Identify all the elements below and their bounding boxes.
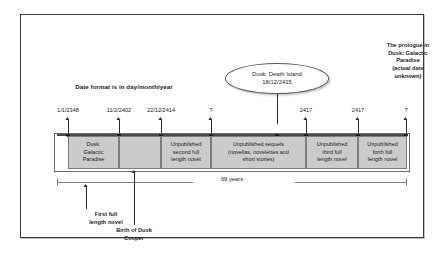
callout-date: 18/12/2415	[262, 79, 291, 87]
diagram-canvas: Date format is in day/month/year Dusk: D…	[0, 0, 441, 256]
segment-4[interactable]: Unpublished third full length novel	[306, 136, 358, 169]
note-leader-first-novel	[86, 187, 87, 209]
note-birth-of-dusk-cooper: Birth of Dusk Cooper	[97, 227, 171, 242]
diagram-frame: Date format is in day/month/year Dusk: D…	[20, 14, 424, 238]
tick-arrowhead-3	[208, 117, 212, 120]
segment-3[interactable]: Unpublished sequels (novellas, novelette…	[211, 136, 306, 169]
note-arrowhead-birth	[132, 170, 136, 173]
segment-1[interactable]	[119, 136, 161, 169]
callout-title: Dusk: Death Island	[252, 71, 302, 79]
callout-ellipse: Dusk: Death Island 18/12/2415	[225, 63, 329, 94]
tick-label-5: 2417	[332, 107, 384, 113]
tick-label-2: 22/12/2414	[135, 107, 187, 113]
tick-arrowhead-0	[65, 117, 69, 120]
date-format-note: Date format is in day/month/year	[58, 83, 190, 90]
span-line-right	[295, 182, 407, 183]
segment-0[interactable]: Dusk: Galactic Paradise	[68, 136, 119, 169]
note-first-full-length-novel: First full length novel	[73, 211, 139, 226]
tick-label-6: ?	[380, 107, 432, 113]
tick-arrowhead-4	[303, 117, 307, 120]
callout-ellipse-leader	[277, 94, 278, 124]
callout-ellipse-text: Dusk: Death Island 18/12/2415	[225, 63, 329, 94]
tick-label-0: 1/1/2348	[42, 107, 94, 113]
tick-label-4: 2417	[280, 107, 332, 113]
note-arrowhead-first-novel	[84, 184, 88, 187]
tick-arrowhead-1	[116, 117, 120, 120]
segment-5[interactable]: Unpublished forth full length novel	[358, 136, 407, 169]
span-cap-right	[406, 179, 407, 186]
prologue-note: The prologue in Dusk: Galactic Paradise …	[371, 42, 441, 80]
tick-arrowhead-5	[355, 117, 359, 120]
note-leader-birth	[134, 173, 135, 225]
tick-label-3: ?	[185, 107, 237, 113]
segment-2[interactable]: Unpublished second full length novel	[161, 136, 211, 169]
span-label: 69 years	[193, 176, 271, 183]
tick-arrowhead-2	[158, 117, 162, 120]
tick-arrowhead-6	[403, 117, 407, 120]
